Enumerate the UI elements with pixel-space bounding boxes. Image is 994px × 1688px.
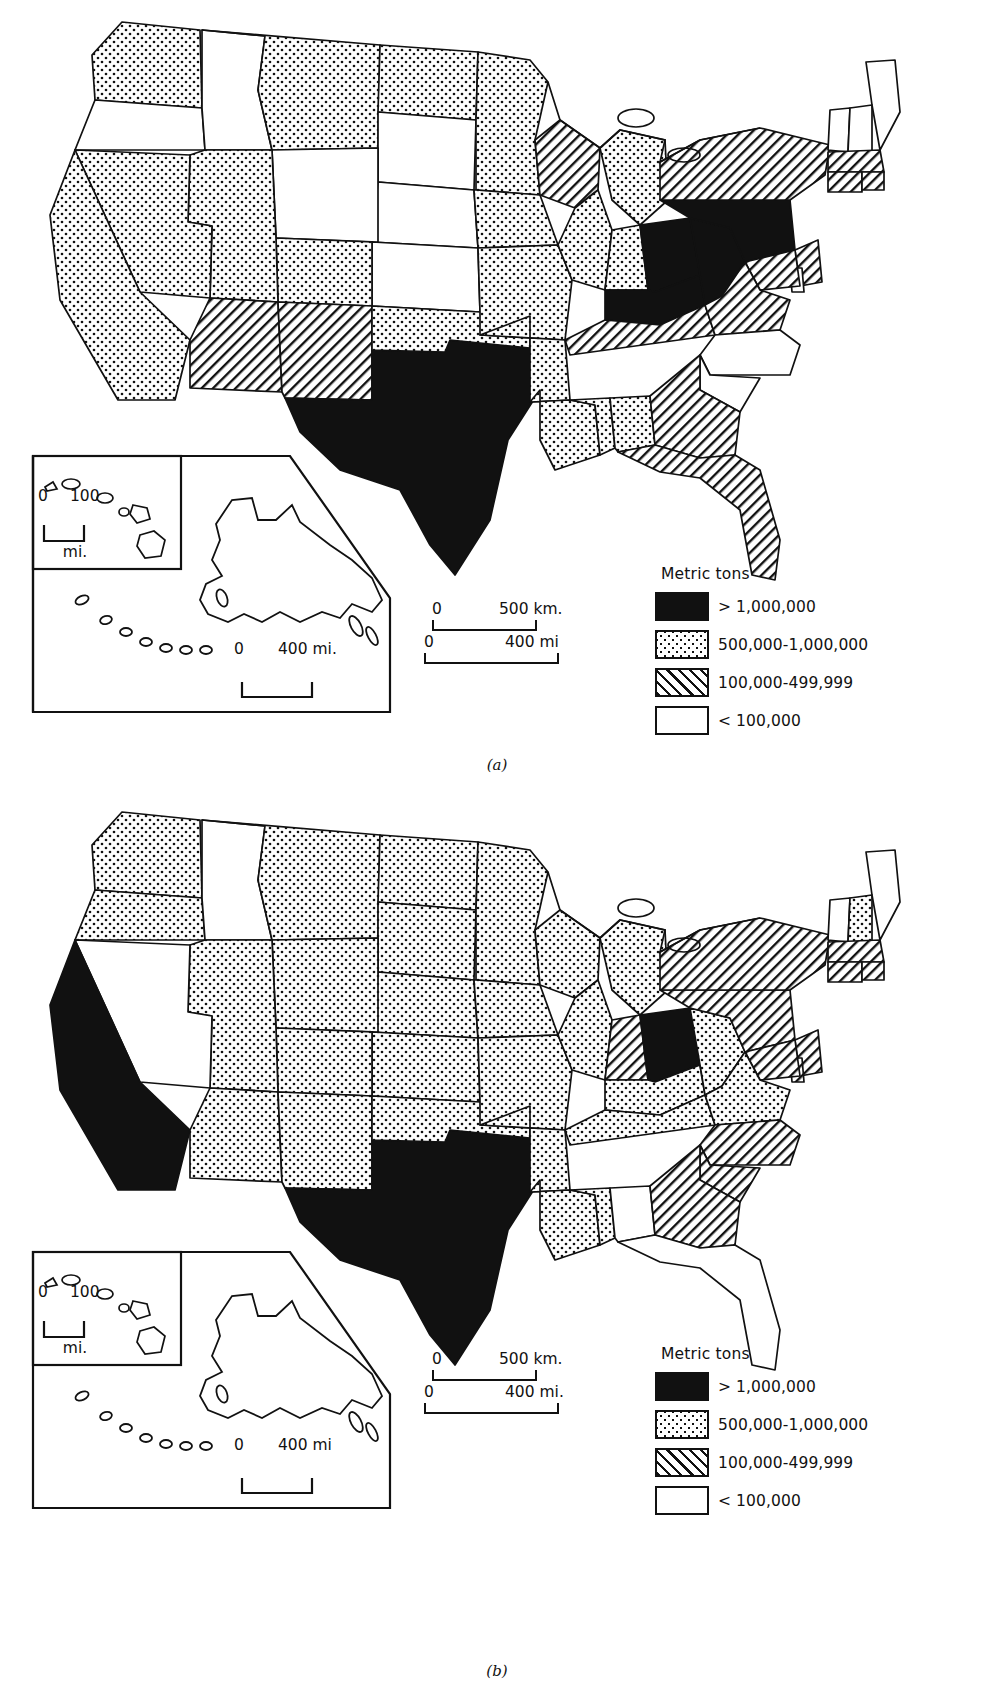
hawaii-scale-max-a: 100 [70,487,100,505]
state-massachusetts [828,150,884,172]
hawaii-scale-unit-b: mi. [45,1339,105,1357]
mi-scale-max-b: 400 mi. [505,1383,564,1401]
state-new-hampshire [848,895,872,942]
legend-title-b: Metric tons [661,1345,868,1363]
state-new-mexico [278,1092,372,1190]
legend-swatch-dots-a [655,630,709,659]
mi-scale-rule-a [424,653,559,664]
state-washington [92,812,202,898]
state-oregon [75,100,205,150]
km-scale-max-a: 500 km. [499,600,563,618]
scalebar-mi-a: 0 400 mi [424,633,599,664]
us-choropleth-map-b [0,790,994,1688]
legend-label-b-1: 500,000-1,000,000 [718,1416,868,1434]
state-iowa [474,190,558,248]
km-scale-max-b: 500 km. [499,1350,563,1368]
state-new-mexico [278,302,372,400]
legend-row-b-2: 100,000-499,999 [655,1448,868,1477]
hawaii-scale-zero-b: 0 [38,1283,48,1301]
legend-label-a-0: > 1,000,000 [718,598,816,616]
state-new-york [660,128,830,200]
legend-swatch-hatch-b [655,1448,709,1477]
hawaii-scale-text-b: 0 100 [38,1283,118,1303]
legend-swatch-solid-a [655,592,709,621]
map-panel-a: 0 400 mi. 0 100 mi. 0 500 km. 0 400 mi M… [0,0,994,790]
state-kansas [372,1032,480,1102]
state-oregon [75,890,205,940]
legend-a: Metric tons > 1,000,000 500,000-1,000,00… [655,565,868,744]
state-alabama [610,396,655,452]
hawaii-scale-max-b: 100 [70,1283,100,1301]
scalebar-km-a: 0 500 km. [432,600,602,631]
state-arizona [190,298,282,392]
legend-swatch-blank-a [655,706,709,735]
state-wisconsin [535,120,600,208]
mi-scale-rule-b [424,1403,559,1414]
hawaii-scale-zero-a: 0 [38,487,48,505]
legend-row-a-1: 500,000-1,000,000 [655,630,868,659]
legend-swatch-solid-b [655,1372,709,1401]
legend-row-b-3: < 100,000 [655,1486,868,1515]
state-north-carolina [700,1120,800,1165]
state-rhode-island [862,962,884,980]
alaska-scale-zero-a: 0 [234,640,244,658]
state-south-dakota [378,112,476,190]
legend-row-b-1: 500,000-1,000,000 [655,1410,868,1439]
state-north-dakota [378,45,478,120]
state-nebraska [372,182,478,248]
state-massachusetts [828,940,884,962]
state-nebraska [372,972,478,1038]
hawaii-scale-caption-b: mi. [45,1338,105,1357]
legend-row-a-2: 100,000-499,999 [655,668,868,697]
state-vermont [828,898,850,942]
hawaii-scale-unit-a: mi. [45,543,105,561]
km-scale-rule-a [432,620,537,631]
legend-b: Metric tons > 1,000,000 500,000-1,000,00… [655,1345,868,1524]
state-connecticut [828,962,862,982]
legend-label-a-3: < 100,000 [718,712,801,730]
state-north-carolina [700,330,800,375]
state-south-dakota [378,902,476,980]
legend-label-a-1: 500,000-1,000,000 [718,636,868,654]
legend-label-b-3: < 100,000 [718,1492,801,1510]
state-wisconsin [535,910,600,998]
hawaii-scale-text-a: 0 100 [38,487,118,507]
legend-title-a: Metric tons [661,565,868,583]
state-iowa [474,980,558,1038]
scalebar-mi-b: 0 400 mi. [424,1383,614,1414]
state-michigan [600,920,668,1015]
state-florida [618,445,780,580]
alaska-scale-max-a: 400 mi. [278,640,337,658]
state-colorado [276,238,372,306]
state-connecticut [828,172,862,192]
legend-row-a-0: > 1,000,000 [655,592,868,621]
state-vermont [828,108,850,152]
km-scale-rule-b [432,1370,537,1381]
legend-label-b-2: 100,000-499,999 [718,1454,853,1472]
state-wyoming [272,938,378,1032]
state-alabama [610,1186,655,1242]
state-washington [92,22,202,108]
state-kansas [372,242,480,312]
state-michigan [600,130,668,225]
alaska-scale-zero-b: 0 [234,1436,244,1454]
map-panel-b: 0 400 mi 0 100 mi. 0 500 km. 0 400 mi. M… [0,790,994,1688]
legend-row-b-0: > 1,000,000 [655,1372,868,1401]
panel-caption-a: (a) [0,756,994,774]
legend-label-b-0: > 1,000,000 [718,1378,816,1396]
km-scale-zero-b: 0 [432,1350,442,1368]
km-scale-zero-a: 0 [432,600,442,618]
state-new-york [660,918,830,990]
legend-label-a-2: 100,000-499,999 [718,674,853,692]
legend-swatch-hatch-a [655,668,709,697]
legend-row-a-3: < 100,000 [655,706,868,735]
hawaii-scale-caption-a: mi. [45,542,105,561]
mi-scale-zero-b: 0 [424,1383,434,1401]
state-arizona [190,1088,282,1182]
state-new-hampshire [848,105,872,152]
legend-swatch-blank-b [655,1486,709,1515]
state-north-dakota [378,835,478,910]
panel-caption-b: (b) [0,1662,994,1680]
state-wyoming [272,148,378,242]
alaska-scale-text-b: 0 400 mi [234,1436,344,1456]
